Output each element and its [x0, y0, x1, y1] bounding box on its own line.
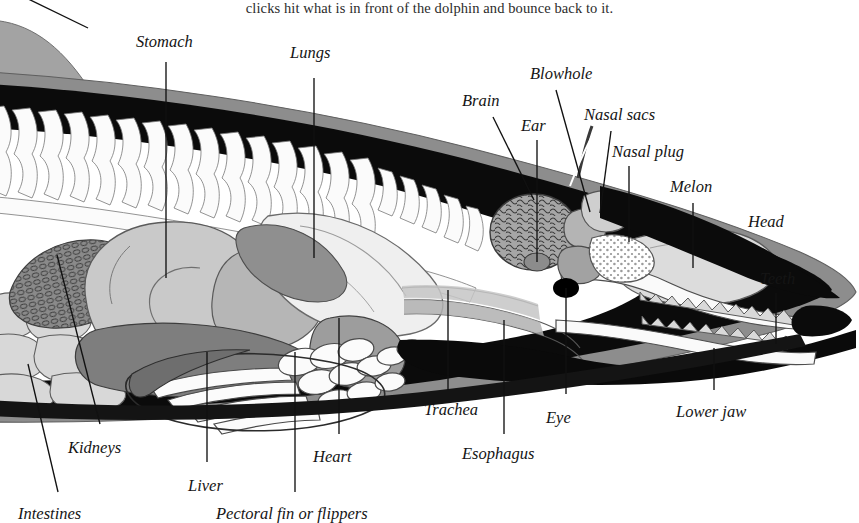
label-brain: Brain	[462, 93, 500, 110]
label-blowhole: Blowhole	[530, 66, 592, 83]
label-trachea: Trachea	[424, 402, 478, 419]
page-caption: clicks hit what is in front of the dolph…	[0, 0, 859, 17]
label-pectoral-fin: Pectoral fin or flippers	[216, 506, 368, 523]
label-lower-jaw: Lower jaw	[676, 404, 746, 421]
label-stomach: Stomach	[136, 34, 193, 51]
label-intestines: Intestines	[18, 506, 81, 523]
label-kidneys: Kidneys	[68, 440, 121, 457]
label-esophagus: Esophagus	[462, 446, 534, 463]
label-liver: Liver	[188, 478, 223, 495]
label-nasal-plug: Nasal plug	[612, 144, 684, 161]
label-melon: Melon	[670, 179, 712, 196]
label-eye: Eye	[546, 410, 571, 427]
label-lungs: Lungs	[290, 45, 330, 62]
label-nasal-sacs: Nasal sacs	[584, 107, 655, 124]
label-heart: Heart	[313, 449, 352, 466]
label-head: Head	[748, 214, 784, 231]
label-teeth: Teeth	[760, 271, 795, 288]
label-ear: Ear	[521, 118, 546, 135]
